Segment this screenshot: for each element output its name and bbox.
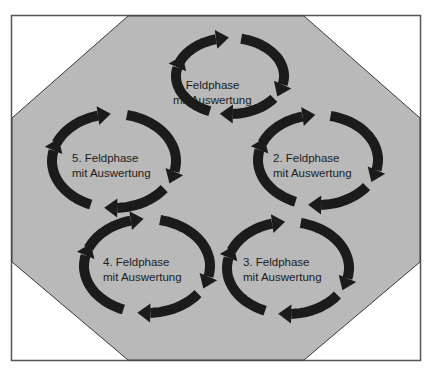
cycle-2-label: 2. Feldphase mit Auswertung xyxy=(273,151,352,181)
cycle-2-subtitle: mit Auswertung xyxy=(273,166,352,181)
cycle-5-title: 5. Feldphase xyxy=(72,151,151,166)
cycle-5-subtitle: mit Auswertung xyxy=(72,166,151,181)
cycle-3-title: 3. Feldphase xyxy=(243,255,322,270)
cycle-4-title: 4. Feldphase xyxy=(103,255,182,270)
cycle-3-label: 3. Feldphase mit Auswertung xyxy=(243,255,322,285)
cycle-1-label: 1. Feldphase mit Auswertung xyxy=(173,78,252,108)
cycle-2-title: 2. Feldphase xyxy=(273,151,352,166)
diagram-canvas: 1. Feldphase mit Auswertung 2. Feldphase… xyxy=(0,0,432,372)
cycle-4-subtitle: mit Auswertung xyxy=(103,270,182,285)
diagram-svg xyxy=(0,0,432,372)
cycle-3-subtitle: mit Auswertung xyxy=(243,270,322,285)
cycle-1-subtitle: mit Auswertung xyxy=(173,93,252,108)
cycle-5-label: 5. Feldphase mit Auswertung xyxy=(72,151,151,181)
cycle-1-title: 1. Feldphase xyxy=(173,78,252,93)
cycle-4-label: 4. Feldphase mit Auswertung xyxy=(103,255,182,285)
